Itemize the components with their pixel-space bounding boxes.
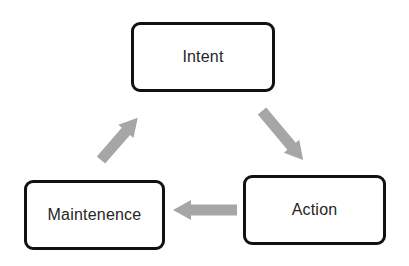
node-action-label: Action xyxy=(292,201,338,219)
arrow-action-to-maintenence xyxy=(173,200,237,220)
arrow-maintenence-to-intent xyxy=(93,111,145,166)
node-intent-label: Intent xyxy=(182,48,223,66)
node-maintenence-label: Maintenence xyxy=(48,206,142,224)
node-intent: Intent xyxy=(131,22,275,92)
cycle-diagram: Intent Action Maintenence xyxy=(0,0,409,266)
node-action: Action xyxy=(243,175,386,245)
arrow-intent-to-action xyxy=(254,105,310,167)
node-maintenence: Maintenence xyxy=(24,180,165,250)
